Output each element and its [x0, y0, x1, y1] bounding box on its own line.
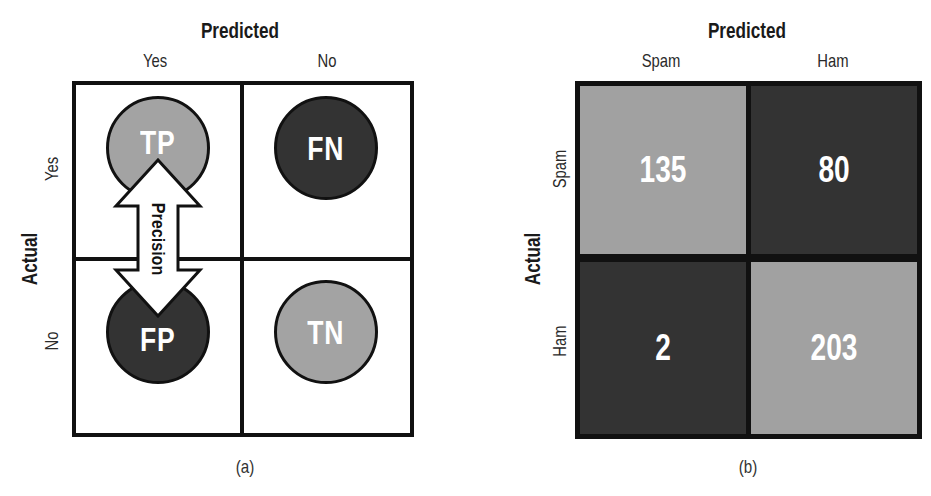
panel-b-caption: (b) [720, 456, 776, 478]
cell-ham-ham: 203 [751, 262, 917, 434]
panel-b-col-label-ham: Ham [798, 50, 868, 72]
panel-a-row-label-no: No [41, 318, 63, 365]
panel-a-caption: (a) [217, 456, 273, 478]
cell-spam-spam: 135 [580, 86, 746, 254]
cell-value: 2 [655, 327, 671, 369]
fn-label: FN [308, 129, 345, 168]
cell-value: 135 [640, 149, 687, 191]
precision-label: Precision [147, 197, 169, 282]
cell-ham-spam: 2 [580, 262, 746, 434]
panel-a-col-label-yes: Yes [120, 50, 190, 72]
panel-a-col-label-no: No [292, 50, 362, 72]
cell-value: 203 [811, 327, 858, 369]
panel-b-row-label-spam: Spam [549, 142, 571, 197]
panel-b-row-label-ham: Ham [549, 314, 571, 369]
panel-b-col-label-spam: Spam [626, 50, 696, 72]
fp-label: FP [140, 320, 175, 359]
panel-b-actual-title: Actual [520, 228, 546, 290]
cell-spam-ham: 80 [751, 86, 917, 254]
tn-label: TN [308, 313, 345, 352]
tn-circle: TN [274, 280, 378, 384]
panel-a-row-label-yes: Yes [41, 146, 63, 193]
fn-circle: FN [274, 96, 378, 200]
panel-b-predicted-title: Predicted [677, 18, 817, 44]
cell-value: 80 [818, 149, 849, 191]
panel-a-predicted-title: Predicted [170, 18, 310, 44]
tp-label: TP [140, 123, 175, 162]
panel-a-actual-title: Actual [17, 228, 43, 290]
